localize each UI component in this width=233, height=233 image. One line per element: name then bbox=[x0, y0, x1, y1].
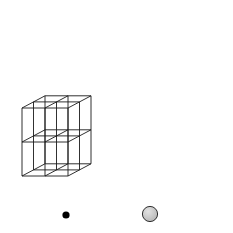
legend bbox=[62, 206, 157, 221]
legend-ca-icon bbox=[62, 211, 69, 218]
figure-canvas bbox=[0, 0, 233, 233]
cube-wireframe bbox=[22, 96, 91, 176]
crystal-structure-diagram bbox=[0, 0, 233, 233]
legend-f-icon bbox=[142, 206, 157, 221]
